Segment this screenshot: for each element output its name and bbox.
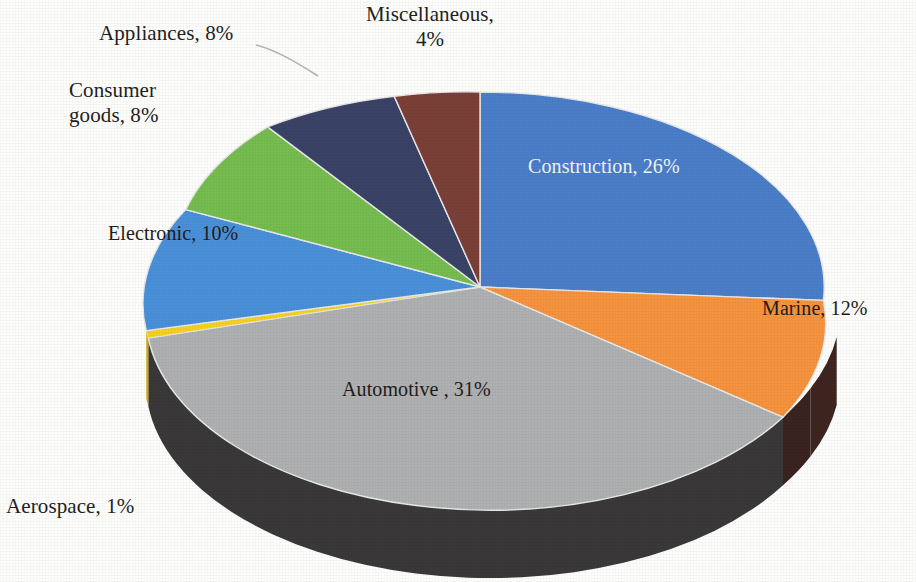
- slice-label-miscellaneous-line2: 4%: [366, 27, 494, 52]
- pie-chart: Appliances, 8% Miscellaneous, 4% Consume…: [0, 0, 916, 582]
- slice-label-automotive: Automotive , 31%: [342, 378, 491, 402]
- slice-label-construction: Construction, 26%: [528, 155, 680, 179]
- pie-chart-page: Appliances, 8% Miscellaneous, 4% Consume…: [0, 0, 916, 582]
- side-wall-aerospace: [146, 331, 148, 406]
- slice-label-consumer-goods-line1: Consumer: [69, 78, 159, 103]
- slice-label-marine: Marine, 12%: [762, 297, 868, 321]
- pie-top-face: [143, 92, 826, 510]
- slice-label-consumer-goods-line2: goods, 8%: [69, 103, 159, 128]
- slice-label-miscellaneous: Miscellaneous, 4%: [366, 2, 494, 52]
- slice-label-consumer-goods: Consumer goods, 8%: [69, 78, 159, 128]
- leader-line-appliances: [256, 45, 318, 76]
- slice-label-electronic: Electronic, 10%: [108, 222, 238, 246]
- slice-label-aerospace: Aerospace, 1%: [6, 494, 134, 519]
- slice-label-appliances: Appliances, 8%: [99, 21, 233, 46]
- slice-label-miscellaneous-line1: Miscellaneous,: [366, 2, 494, 27]
- slice-construction: [480, 92, 824, 300]
